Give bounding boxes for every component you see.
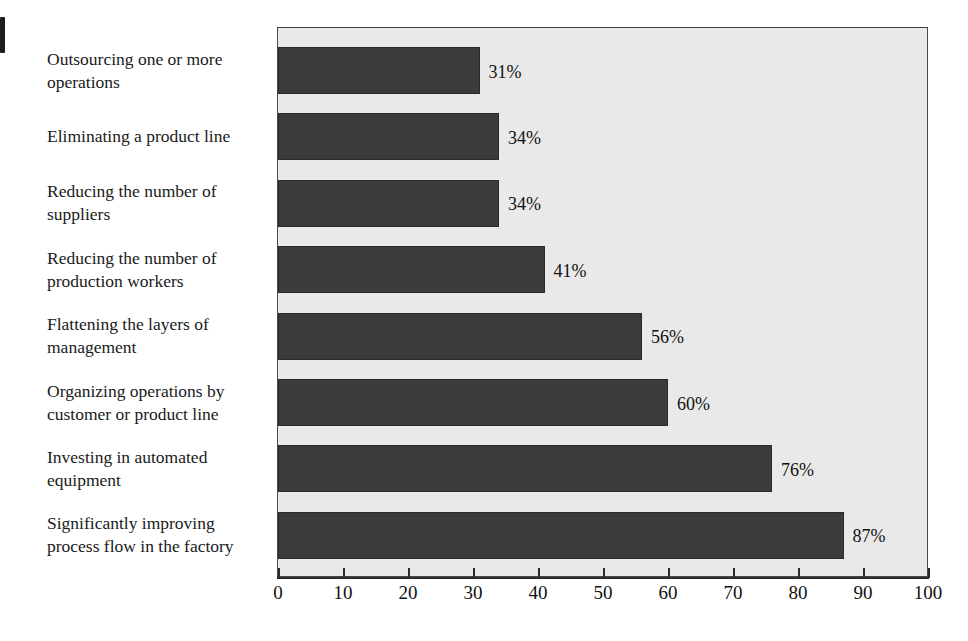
- bar-value-label: 56%: [651, 328, 684, 346]
- x-axis-tick-label: 80: [789, 583, 808, 602]
- x-axis-tick-label: 70: [724, 583, 743, 602]
- category-label: Flattening the layers ofmanagement: [47, 313, 272, 359]
- x-axis-tick-label: 60: [659, 583, 678, 602]
- category-labels-column: Outsourcing one or moreoperationsElimina…: [0, 27, 277, 577]
- category-label-line: Significantly improving: [47, 512, 272, 535]
- x-axis-tick: [538, 568, 540, 578]
- bar: [278, 113, 499, 160]
- plot-area: 31%34%34%41%56%60%76%87%: [277, 27, 928, 577]
- category-label-line: customer or product line: [47, 403, 272, 426]
- x-axis-tick: [668, 568, 670, 578]
- bar: [278, 47, 480, 94]
- bar: [278, 180, 499, 227]
- category-label-line: Reducing the number of: [47, 247, 272, 270]
- x-axis-tick-label: 30: [464, 583, 483, 602]
- x-axis-tick: [473, 568, 475, 578]
- x-axis-tick-label: 50: [594, 583, 613, 602]
- x-axis-tick-label: 0: [273, 583, 283, 602]
- category-label-line: management: [47, 336, 272, 359]
- bar: [278, 246, 545, 293]
- x-axis-tick-label: 100: [914, 583, 943, 602]
- bar-value-label: 34%: [508, 129, 541, 147]
- category-label-line: operations: [47, 71, 272, 94]
- bar-value-label: 60%: [677, 395, 710, 413]
- bar: [278, 379, 668, 426]
- bar-value-label: 76%: [781, 461, 814, 479]
- x-axis-tick: [408, 568, 410, 578]
- bar-value-label: 87%: [853, 527, 886, 545]
- x-axis-tick-label: 10: [334, 583, 353, 602]
- bar: [278, 512, 844, 559]
- bar-value-label: 31%: [489, 63, 522, 81]
- category-label-line: equipment: [47, 469, 272, 492]
- category-label-line: suppliers: [47, 203, 272, 226]
- category-label-line: Eliminating a product line: [47, 125, 272, 148]
- x-axis-tick: [733, 568, 735, 578]
- category-label-line: Reducing the number of: [47, 180, 272, 203]
- category-label-line: process flow in the factory: [47, 535, 272, 558]
- x-axis-tick: [863, 568, 865, 578]
- bar-chart-figure: Outsourcing one or moreoperationsElimina…: [0, 0, 968, 641]
- x-axis-tick: [278, 568, 280, 578]
- bar-value-label: 41%: [554, 262, 587, 280]
- category-label-line: Investing in automated: [47, 446, 272, 469]
- category-label: Significantly improvingprocess flow in t…: [47, 512, 272, 558]
- category-label: Reducing the number ofproduction workers: [47, 247, 272, 293]
- bar: [278, 445, 772, 492]
- category-label-line: Organizing operations by: [47, 380, 272, 403]
- category-label: Outsourcing one or moreoperations: [47, 48, 272, 94]
- x-axis-tick-label: 40: [529, 583, 548, 602]
- category-label: Eliminating a product line: [47, 125, 272, 148]
- plot-inner: 31%34%34%41%56%60%76%87%: [278, 28, 927, 576]
- category-label-line: production workers: [47, 270, 272, 293]
- x-axis-tick: [603, 568, 605, 578]
- category-label: Organizing operations bycustomer or prod…: [47, 380, 272, 426]
- x-axis-tick-label: 20: [399, 583, 418, 602]
- bar-value-label: 34%: [508, 195, 541, 213]
- x-axis-tick: [928, 568, 930, 578]
- category-label: Investing in automatedequipment: [47, 446, 272, 492]
- category-label-line: Outsourcing one or more: [47, 48, 272, 71]
- category-label: Reducing the number ofsuppliers: [47, 180, 272, 226]
- x-axis-tick: [798, 568, 800, 578]
- category-label-line: Flattening the layers of: [47, 313, 272, 336]
- bar: [278, 313, 642, 360]
- x-axis-tick-label: 90: [854, 583, 873, 602]
- x-axis-tick: [343, 568, 345, 578]
